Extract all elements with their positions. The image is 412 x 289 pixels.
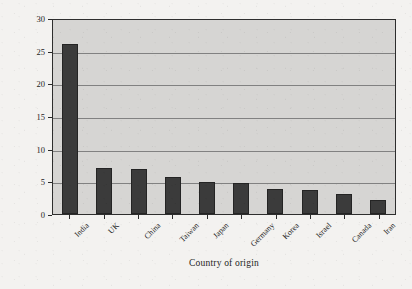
x-tick-label: China <box>143 221 163 241</box>
bar <box>336 194 352 214</box>
bar <box>267 189 283 214</box>
bar-slot <box>292 20 326 214</box>
y-tick-label: 10 <box>24 146 48 154</box>
bar-chart-figure: Percentage of founders 051015202530 Indi… <box>0 0 412 289</box>
x-tick-label: Israel <box>314 221 333 240</box>
y-tick-mark <box>48 52 52 53</box>
bar-slot <box>190 20 224 214</box>
x-tick-label: India <box>73 221 91 239</box>
bar <box>131 169 147 214</box>
x-tick-label: Germany <box>249 221 276 248</box>
bar-slot <box>258 20 292 214</box>
x-tick-label: UK <box>106 221 121 236</box>
bar <box>370 200 386 214</box>
x-axis-title: Country of origin <box>52 258 396 268</box>
y-tick-mark <box>48 117 52 118</box>
bar <box>302 190 318 214</box>
bar-slot <box>224 20 258 214</box>
y-tick-label: 30 <box>24 15 48 23</box>
bar-slot <box>361 20 395 214</box>
y-tick-label: 0 <box>24 211 48 219</box>
y-axis-title: Percentage of founders <box>2 0 16 47</box>
x-tick-label: Japan <box>211 221 230 240</box>
x-axis-tick-labels: IndiaUKChinaTaiwanJapanGermanyKoreaIsrae… <box>52 219 396 255</box>
x-tick-label: Taiwan <box>178 221 201 244</box>
y-tick-mark <box>48 182 52 183</box>
y-tick-label: 20 <box>24 80 48 88</box>
bar <box>96 168 112 214</box>
bar <box>199 182 215 214</box>
bar <box>165 177 181 214</box>
y-axis-tick-labels: 051015202530 <box>24 19 48 215</box>
y-tick-mark <box>48 215 52 216</box>
y-tick-mark <box>48 19 52 20</box>
y-tick-label: 25 <box>24 48 48 56</box>
bars-group <box>53 20 395 214</box>
bar-slot <box>156 20 190 214</box>
plot-area <box>52 19 396 215</box>
y-tick-label: 5 <box>24 178 48 186</box>
bar-slot <box>121 20 155 214</box>
bar-slot <box>87 20 121 214</box>
x-tick-label: Iran <box>382 221 397 236</box>
y-tick-label: 15 <box>24 113 48 121</box>
y-tick-mark <box>48 150 52 151</box>
bar <box>233 183 249 214</box>
bar <box>62 44 78 214</box>
bar-slot <box>53 20 87 214</box>
x-tick-label: Canada <box>350 221 373 244</box>
x-tick-label: Korea <box>280 221 300 241</box>
y-tick-mark <box>48 84 52 85</box>
bar-slot <box>327 20 361 214</box>
